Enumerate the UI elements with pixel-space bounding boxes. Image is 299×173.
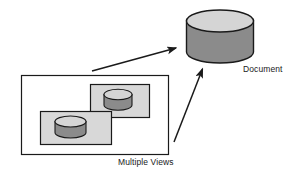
view-cylinder-front — [55, 116, 86, 138]
multiple-views-label: Multiple Views — [118, 157, 174, 167]
view-cylinder-front-top — [55, 116, 86, 127]
arrow-views-to-document-upper — [92, 48, 176, 71]
diagram-canvas: Document Multiple Views — [0, 0, 299, 173]
document-label: Document — [243, 64, 283, 74]
view-cylinder-back-top — [104, 89, 132, 99]
document-cylinder — [187, 10, 254, 63]
arrow-views-to-document-lower — [174, 69, 203, 142]
diagram-svg — [0, 0, 299, 173]
document-cylinder-top — [187, 10, 254, 32]
view-panel-front — [41, 112, 112, 145]
view-cylinder-back — [104, 89, 132, 110]
